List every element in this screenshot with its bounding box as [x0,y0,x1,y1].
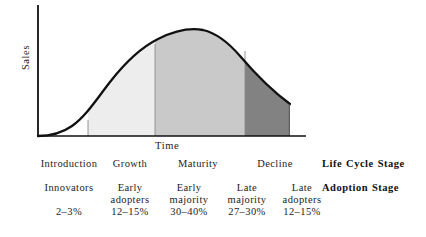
adoption-cell-late-adopters-line2: adopters [266,194,338,206]
region-maturity [155,0,245,136]
pct-early-adopters: 12–15% [98,206,162,218]
pct-early-majority: 30–40% [156,206,222,218]
adoption-cell-early-adopters-line1: Early [98,182,162,194]
life-cycle-word-3: Stage [378,158,405,169]
pct-late-adopters: 12–15% [266,206,338,218]
life-cycle-stage-row-label: LifeCycleStage [322,158,405,169]
region-introduction [38,0,88,136]
adoption-cell-early-majority-line2: majority [156,194,222,206]
y-axis-title: Sales [20,28,31,88]
adoption-cell-early-adopters-line2: adopters [98,194,162,206]
product-life-cycle-figure: Sales Time Introduction Growth Maturity … [0,0,426,237]
adoption-cell-early-majority-line1: Early [156,182,222,194]
x-axis-title: Time [155,140,179,151]
adoption-word-1: Adoption [322,182,368,193]
life-cycle-word-2: Cycle [346,158,374,169]
life-cycle-word-1: Life [322,158,342,169]
adoption-word-2: Stage [372,182,399,193]
life-cycle-cell-decline: Decline [244,158,306,170]
life-cycle-cell-growth: Growth [95,158,165,170]
chart-canvas [0,0,320,150]
life-cycle-cell-maturity: Maturity [158,158,238,170]
adoption-stage-row-label: AdoptionStage [322,182,399,193]
life-cycle-chart: Sales Time [0,0,320,150]
